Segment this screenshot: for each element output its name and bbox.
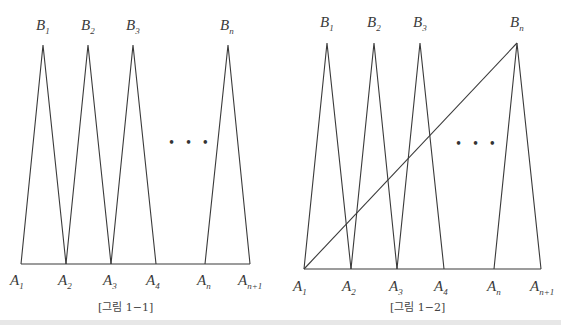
label-b3: B3: [413, 14, 427, 33]
label-bn: Bn: [510, 14, 524, 33]
label-a4: A4: [145, 272, 160, 291]
label-a2: A2: [341, 278, 356, 297]
triangle-b1: [21, 45, 66, 264]
ellipsis: • • •: [168, 136, 212, 150]
label-an-plus-1: An+1: [237, 272, 262, 291]
triangle-b3: [111, 45, 156, 264]
label-a4: A4: [433, 278, 448, 297]
label-b1: B1: [36, 17, 50, 36]
label-a3: A3: [102, 272, 117, 291]
label-bn: Bn: [220, 17, 234, 36]
label-b2: B2: [367, 14, 381, 33]
label-a1: A1: [9, 272, 24, 291]
label-b2: B2: [81, 17, 95, 36]
label-a1: A1: [292, 278, 307, 297]
triangle-b3: [397, 43, 444, 269]
label-an: An: [196, 272, 211, 291]
caption-figure-1-2: [그림 1−2]: [390, 301, 445, 314]
figure-1-2: • • • B1 B2 B3 Bn A1 A2 A3 A4 An An+1 [그…: [292, 14, 554, 314]
diagram-canvas: • • • B1 B2 B3 Bn A1 A2 A3 A4 An An+1 [그…: [0, 0, 561, 325]
triangle-b1: [304, 43, 351, 269]
label-an-plus-1: An+1: [529, 278, 554, 297]
triangle-bn: [494, 43, 541, 269]
triangle-b2: [66, 45, 111, 264]
cut-off-text-row: [0, 320, 561, 325]
label-a2: A2: [57, 272, 72, 291]
triangle-bn: [205, 45, 250, 264]
label-a3: A3: [388, 278, 403, 297]
ellipsis: • • •: [455, 137, 499, 151]
triangle-b2: [351, 43, 397, 269]
figure-1-1: • • • B1 B2 B3 Bn A1 A2 A3 A4 An An+1 [그…: [9, 17, 262, 314]
caption-figure-1-1: [그림 1−1]: [98, 301, 153, 314]
label-an: An: [486, 278, 501, 297]
label-b1: B1: [320, 14, 334, 33]
label-b3: B3: [126, 17, 140, 36]
diagonal-a1-bn: [304, 43, 517, 269]
